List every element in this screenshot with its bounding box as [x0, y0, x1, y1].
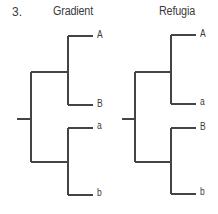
tree-title-refugia: Refugia [159, 4, 195, 18]
leaf-label: B [200, 121, 206, 132]
leaf-label: A [200, 28, 206, 39]
leaf-label: B [97, 98, 103, 109]
tree-branches [0, 0, 218, 214]
leaf-label: a [97, 120, 102, 131]
leaf-label: A [97, 29, 103, 40]
gradient-tree [17, 36, 93, 195]
leaf-label: b [97, 187, 102, 198]
refugia-tree [122, 35, 196, 194]
leaf-label: b [200, 186, 205, 197]
leaf-label: a [200, 96, 205, 107]
